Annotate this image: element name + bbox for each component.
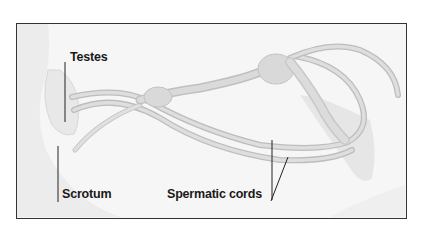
anatomy-illustration [0, 0, 431, 242]
cords-leader-line-2 [271, 157, 288, 201]
label-testes: Testes [70, 50, 107, 64]
body-shape-right-lower [330, 185, 405, 217]
bulge-small [144, 87, 172, 107]
label-scrotum: Scrotum [62, 187, 111, 201]
spermatic-cord-crossing [75, 105, 140, 150]
label-spermatic-cords: Spermatic cords [167, 187, 262, 201]
scrotum-shape [45, 70, 79, 135]
